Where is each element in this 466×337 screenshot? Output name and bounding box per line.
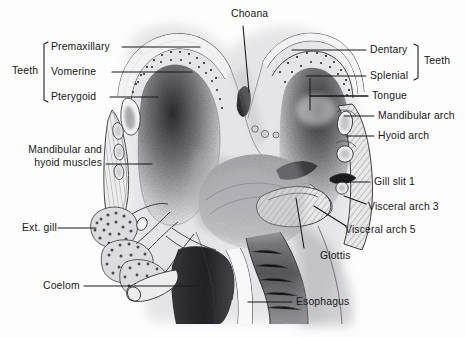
label-coelom: Coelom bbox=[43, 280, 80, 293]
label-splenial: Splenial bbox=[370, 70, 408, 83]
label-choana: Choana bbox=[231, 8, 268, 21]
anatomical-figure: Choana Teeth Premaxillary Vomerine Ptery… bbox=[0, 0, 466, 337]
label-teeth-right-group: Teeth bbox=[424, 55, 450, 68]
label-premaxillary: Premaxillary bbox=[51, 41, 110, 54]
label-ext-gill: Ext. gill bbox=[22, 222, 57, 235]
label-esophagus: Esophagus bbox=[296, 296, 349, 309]
label-pterygoid: Pterygoid bbox=[51, 91, 96, 104]
label-mandibular-arch: Mandibular arch bbox=[378, 110, 455, 123]
label-visceral-arch-5: Visceral arch 5 bbox=[345, 224, 416, 237]
label-mandibular-hyoid-muscles-line1: Mandibular and bbox=[10, 144, 102, 157]
label-mandibular-hyoid-muscles-line2: hyoid muscles bbox=[10, 157, 102, 170]
label-visceral-arch-3: Visceral arch 3 bbox=[368, 201, 439, 214]
label-dentary: Dentary bbox=[370, 44, 407, 57]
label-glottis: Glottis bbox=[320, 250, 351, 263]
label-hyoid-arch: Hyoid arch bbox=[378, 130, 429, 143]
label-teeth-left-group: Teeth bbox=[12, 65, 38, 78]
label-gill-slit-1: Gill slit 1 bbox=[374, 176, 415, 189]
label-vomerine: Vomerine bbox=[51, 66, 96, 79]
label-tongue: Tongue bbox=[372, 90, 407, 103]
